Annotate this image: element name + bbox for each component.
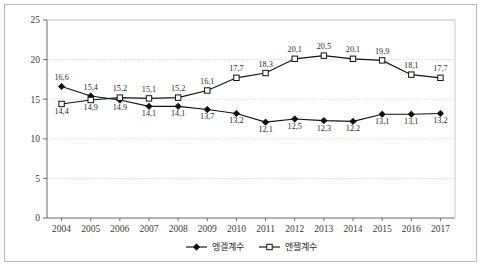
data-point-labels: 16,615,414,914,114,113,713,212,112,512,3… <box>54 42 447 134</box>
data-point-label: 13,1 <box>404 117 418 126</box>
data-point-label: 12,1 <box>258 125 272 134</box>
y-axis-tick-label: 5 <box>35 174 40 184</box>
data-point-label: 13,1 <box>375 117 389 126</box>
y-axis-tick-label: 0 <box>35 213 40 223</box>
data-point-marker <box>350 56 355 61</box>
data-point-label: 19,9 <box>375 47 389 56</box>
series-2 <box>59 53 443 107</box>
data-point-marker <box>205 88 210 93</box>
data-point-marker <box>59 101 64 106</box>
x-axis-tick-label: 2008 <box>169 224 188 234</box>
data-point-marker <box>438 75 443 80</box>
data-point-marker <box>146 96 151 101</box>
data-point-marker <box>117 95 122 100</box>
data-point-marker <box>234 75 239 80</box>
x-axis-tick-label: 2004 <box>52 224 71 234</box>
x-axis-tick-label: 2014 <box>344 224 363 234</box>
y-axis-tick-label: 10 <box>31 134 41 144</box>
data-point-label: 16,1 <box>200 77 214 86</box>
data-point-label: 13,2 <box>229 116 243 125</box>
y-axis-tick-labels: 0510152025 <box>31 15 41 223</box>
data-point-marker <box>409 72 414 77</box>
x-axis-tick-labels: 2004200520062007200820092010201120122013… <box>52 224 450 234</box>
data-point-label: 13,2 <box>433 116 447 125</box>
x-axis-tick-label: 2016 <box>402 224 421 234</box>
data-point-label: 16,6 <box>54 73 68 82</box>
data-point-label: 12,2 <box>346 124 360 133</box>
x-axis-tick-label: 2013 <box>314 224 333 234</box>
data-point-label: 15,4 <box>84 83 98 92</box>
data-point-marker <box>267 244 272 249</box>
data-point-label: 15,1 <box>142 85 156 94</box>
legend-label: 엔젤계수 <box>285 241 317 252</box>
chart-legend: 엥겔계수엔젤계수 <box>186 241 317 252</box>
data-point-label: 14,1 <box>171 109 185 118</box>
legend-item-2[interactable]: 엔젤계수 <box>259 241 317 252</box>
data-point-label: 18,1 <box>404 61 418 70</box>
x-axis-tick-label: 2007 <box>140 224 159 234</box>
data-point-label: 12,3 <box>317 124 331 133</box>
data-point-label: 15,2 <box>171 84 185 93</box>
data-point-label: 13,7 <box>200 112 214 121</box>
data-point-label: 20,1 <box>346 45 360 54</box>
x-axis-tick-label: 2017 <box>431 224 450 234</box>
x-axis-tick-label: 2006 <box>110 224 129 234</box>
data-point-marker <box>379 58 384 63</box>
x-axis-tick-label: 2005 <box>81 224 100 234</box>
y-axis-tick-label: 15 <box>31 95 41 105</box>
x-axis-tick-label: 2012 <box>285 224 304 234</box>
data-point-label: 17,7 <box>433 64 447 73</box>
data-point-label: 20,1 <box>288 45 302 54</box>
line-chart: 0510152025 20042005200620072008200920102… <box>0 0 483 272</box>
data-point-marker <box>193 244 199 250</box>
y-axis-tick-label: 25 <box>31 15 41 25</box>
chart-figure: 0510152025 20042005200620072008200920102… <box>0 0 483 272</box>
x-axis-tick-label: 2011 <box>256 224 275 234</box>
data-point-marker <box>321 53 326 58</box>
data-point-marker <box>58 83 64 89</box>
data-point-marker <box>88 97 93 102</box>
data-point-label: 20,5 <box>317 42 331 51</box>
data-point-marker <box>175 95 180 100</box>
data-point-label: 14,9 <box>84 103 98 112</box>
gridlines <box>47 20 455 178</box>
data-point-label: 17,7 <box>229 64 243 73</box>
x-axis-tick-label: 2015 <box>373 224 392 234</box>
x-axis-tick-label: 2010 <box>227 224 246 234</box>
data-point-label: 14,9 <box>113 103 127 112</box>
legend-item-1[interactable]: 엥겔계수 <box>186 241 244 252</box>
data-point-label: 18,3 <box>258 60 272 69</box>
y-axis-tick-label: 20 <box>31 55 41 65</box>
data-point-label: 15,2 <box>113 84 127 93</box>
legend-label: 엥겔계수 <box>212 241 244 252</box>
data-point-label: 12,5 <box>288 122 302 131</box>
y-axis-ticks <box>43 20 47 218</box>
data-point-marker <box>292 56 297 61</box>
data-point-label: 14,4 <box>54 107 68 116</box>
plot-frame <box>47 20 455 218</box>
data-point-marker <box>263 70 268 75</box>
data-point-label: 14,1 <box>142 109 156 118</box>
x-axis-tick-label: 2009 <box>198 224 217 234</box>
